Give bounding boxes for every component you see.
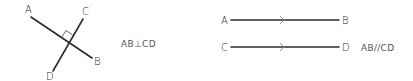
parallel-figure: A B C D AB//CD (221, 15, 394, 53)
perpendicular-statement: AB⊥CD (121, 39, 156, 49)
point-label-a-parallel: A (221, 15, 228, 26)
point-label-d-parallel: D (342, 42, 350, 53)
point-label-c-parallel: C (221, 42, 228, 53)
right-angle-mark-icon (62, 31, 73, 38)
point-label-b: B (94, 56, 101, 67)
point-label-b-parallel: B (342, 15, 349, 26)
geometry-diagram: A B C D AB⊥CD A B C D AB//CD (0, 0, 413, 81)
parallel-statement: AB//CD (361, 43, 394, 53)
perpendicular-figure: A B C D AB⊥CD (25, 4, 156, 81)
point-label-c: C (82, 6, 89, 17)
point-label-d: D (46, 71, 54, 81)
point-label-a: A (25, 4, 32, 15)
line-cd-perpendicular (53, 19, 83, 71)
